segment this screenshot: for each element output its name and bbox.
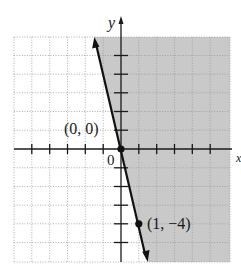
- point-1-neg4-label: (1, −4): [147, 215, 191, 233]
- y-axis-arrow-icon: [119, 16, 124, 24]
- point-1-neg4: [135, 220, 142, 227]
- origin-label: 0: [107, 152, 115, 168]
- x-axis-label: x: [235, 151, 241, 165]
- point-origin: [117, 145, 124, 152]
- y-axis-label: y: [106, 14, 116, 32]
- coordinate-plane: y x 0 (0, 0) (1, −4): [0, 0, 241, 276]
- point-origin-label: (0, 0): [64, 120, 99, 138]
